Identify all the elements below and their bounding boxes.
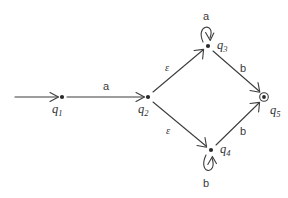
state-node-q4[interactable]	[209, 148, 213, 152]
edge-q4-q5	[216, 102, 260, 145]
state-label-q5: q5	[270, 104, 281, 117]
diagram-canvas: q1 q2 q3 q4 q5 a ε ε b b a b	[0, 0, 288, 198]
edge-q2-q4	[153, 102, 207, 147]
transition-label-q3-q5: b	[240, 63, 246, 74]
state-node-q2[interactable]	[146, 95, 150, 99]
state-diagram-graphics	[0, 0, 288, 198]
edge-q2-q3	[153, 49, 204, 92]
state-label-q2: q2	[138, 103, 149, 116]
start-arrow	[15, 93, 59, 102]
transition-label-q2-q4: ε	[166, 126, 170, 137]
edge-q1-q2	[67, 93, 145, 102]
self-loop-label-q3: a	[203, 11, 209, 22]
state-node-q3[interactable]	[206, 44, 210, 48]
self-loop-label-q4: b	[203, 178, 209, 189]
state-label-q4: q4	[220, 143, 231, 156]
self-loop-q3	[201, 27, 214, 42]
transition-label-q2-q3: ε	[165, 63, 169, 74]
transition-label-q4-q5: b	[240, 126, 246, 137]
self-loop-q4	[204, 155, 217, 170]
state-node-q5[interactable]	[260, 93, 269, 102]
state-label-q1: q1	[52, 103, 63, 116]
edge-q3-q5	[213, 51, 260, 92]
state-node-q1[interactable]	[60, 95, 64, 99]
state-label-q3: q3	[217, 39, 228, 52]
transition-label-q1-q2: a	[103, 81, 109, 92]
